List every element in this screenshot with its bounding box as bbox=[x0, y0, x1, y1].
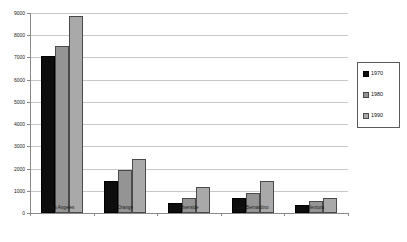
y-axis-line bbox=[30, 13, 31, 214]
legend-label: 1990 bbox=[371, 112, 383, 119]
legend-item[interactable]: 1980 bbox=[363, 91, 383, 98]
bar-group bbox=[157, 13, 221, 213]
y-tick-label: 8000 bbox=[0, 32, 25, 38]
x-tick-mark bbox=[284, 213, 285, 216]
bar[interactable] bbox=[69, 16, 83, 213]
x-tick-mark bbox=[348, 213, 349, 216]
bar-group bbox=[30, 13, 94, 213]
legend-swatch-icon bbox=[363, 113, 369, 119]
legend-item[interactable]: 1990 bbox=[363, 112, 383, 119]
y-tick-label: 1000 bbox=[0, 188, 25, 194]
x-tick-mark bbox=[157, 213, 158, 216]
y-tick-mark bbox=[27, 35, 30, 36]
legend-swatch-icon bbox=[363, 71, 369, 77]
bar-group bbox=[284, 13, 348, 213]
y-tick-mark bbox=[27, 124, 30, 125]
bar-chart: 0100020003000400050006000700080009000 Lo… bbox=[0, 0, 407, 242]
bar-group-bars bbox=[221, 13, 285, 213]
y-tick-label: 6000 bbox=[0, 77, 25, 83]
x-axis-line bbox=[30, 213, 348, 214]
bar-group-bars bbox=[30, 13, 94, 213]
y-tick-mark bbox=[27, 102, 30, 103]
y-tick-label: 7000 bbox=[0, 54, 25, 60]
y-tick-mark bbox=[27, 80, 30, 81]
y-tick-mark bbox=[27, 146, 30, 147]
legend: 197019801990 bbox=[357, 62, 400, 128]
plot-area bbox=[30, 13, 348, 213]
y-tick-label: 2000 bbox=[0, 166, 25, 172]
bar-group-bars bbox=[284, 13, 348, 213]
legend-label: 1970 bbox=[371, 70, 383, 77]
y-tick-mark bbox=[27, 191, 30, 192]
legend-swatch-icon bbox=[363, 92, 369, 98]
y-tick-label: 5000 bbox=[0, 99, 25, 105]
bar[interactable] bbox=[41, 56, 55, 213]
bar[interactable] bbox=[55, 46, 69, 213]
y-tick-mark bbox=[27, 13, 30, 14]
y-tick-mark bbox=[27, 169, 30, 170]
x-tick-mark bbox=[30, 213, 31, 216]
y-tick-label: 4000 bbox=[0, 121, 25, 127]
y-tick-label: 3000 bbox=[0, 143, 25, 149]
legend-label: 1980 bbox=[371, 91, 383, 98]
bar-group bbox=[94, 13, 158, 213]
legend-item[interactable]: 1970 bbox=[363, 70, 383, 77]
x-tick-mark bbox=[94, 213, 95, 216]
y-tick-mark bbox=[27, 57, 30, 58]
bar-group-bars bbox=[157, 13, 221, 213]
y-tick-label: 9000 bbox=[0, 10, 25, 16]
category-label: Ventura bbox=[271, 205, 361, 211]
bar-group bbox=[221, 13, 285, 213]
bar-group-bars bbox=[94, 13, 158, 213]
x-tick-mark bbox=[221, 213, 222, 216]
